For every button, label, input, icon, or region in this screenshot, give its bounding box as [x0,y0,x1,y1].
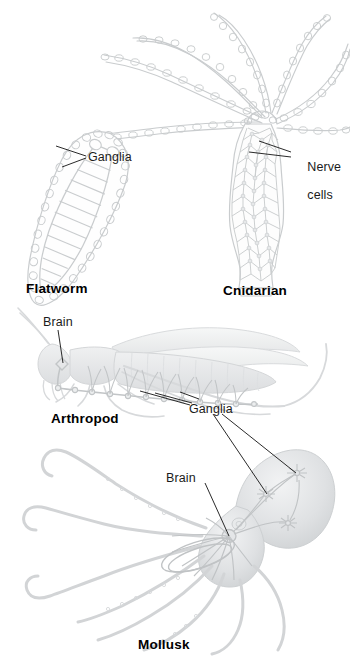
label-ganglia-shared: Ganglia [189,402,233,416]
label-brain-arthropod: Brain [43,315,73,329]
label-brain-mollusk: Brain [166,471,196,485]
label-nerve-cells-line2: cells [307,188,333,202]
caption-arthropod: Arthropod [51,411,119,426]
caption-cnidarian: Cnidarian [223,283,287,298]
caption-flatworm: Flatworm [26,281,88,296]
nervous-system-figure: Ganglia Nerve cells Brain Ganglia Brain … [0,0,350,661]
label-nerve-cells-line1: Nerve [307,160,341,174]
figure-artwork [0,0,350,661]
label-nerve-cells: Nerve cells [293,146,341,216]
label-ganglia-flatworm: Ganglia [88,150,132,164]
caption-mollusk: Mollusk [138,637,190,652]
